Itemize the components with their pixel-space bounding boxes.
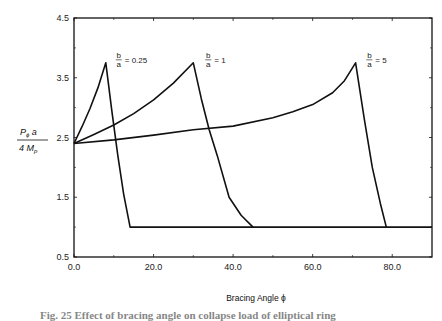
x-tick-label: 20.0 [145, 262, 163, 272]
y-tick-label: 1.5 [56, 192, 69, 202]
x-tick-label: 60.0 [304, 262, 322, 272]
y-tick-label: 4.5 [56, 13, 69, 23]
x-tick-label: 80.0 [383, 262, 401, 272]
series-label-numerator: b [117, 51, 122, 60]
series-label-numerator: b [206, 51, 211, 60]
figure-caption: Fig. 25 Effect of bracing angle on colla… [40, 309, 420, 321]
series-label-value: = 5 [375, 56, 387, 65]
y-tick-label: 2.5 [56, 133, 69, 143]
y-axis-title-denominator: 4 Mp [19, 143, 38, 154]
x-tick-label: 40.0 [224, 262, 242, 272]
y-axis: 0.51.52.53.54.5 [56, 13, 432, 262]
series-line-2 [74, 63, 253, 227]
series-label-3: ba= 5 [366, 51, 387, 69]
y-tick-label: 0.5 [56, 252, 69, 262]
series-label-numerator: b [367, 51, 372, 60]
series-label-denominator: a [206, 60, 211, 69]
series-layer [74, 63, 432, 227]
series-label-denominator: a [367, 60, 372, 69]
y-axis-title: Pϕ a 4 Mp [17, 127, 48, 154]
series-label-denominator: a [117, 60, 122, 69]
series-labels: ba= 0.25ba= 1ba= 5 [116, 51, 387, 69]
series-label-value: = 1 [214, 56, 226, 65]
series-line-1 [74, 63, 432, 227]
y-tick-label: 3.5 [56, 73, 69, 83]
series-label-1: ba= 0.25 [116, 51, 148, 69]
series-label-value: = 0.25 [125, 56, 148, 65]
series-line-3 [74, 63, 386, 227]
x-axis-title: Bracing Angle ϕ [226, 293, 286, 303]
y-axis-title-numerator: Pϕ a [20, 127, 37, 138]
x-tick-label: 0.0 [68, 262, 81, 272]
series-label-2: ba= 1 [205, 51, 226, 69]
